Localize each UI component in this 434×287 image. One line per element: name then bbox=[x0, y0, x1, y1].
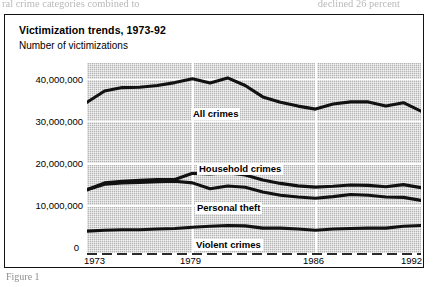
line-all-crimes bbox=[87, 78, 421, 111]
line-violent-crimes bbox=[87, 226, 421, 232]
series-label-household-crimes: Household crimes bbox=[197, 163, 283, 175]
plot-area: All crimes Household crimes Personal the… bbox=[87, 63, 421, 253]
bleed-text-right: declined 26 percent bbox=[318, 0, 400, 10]
figure-caption: Figure 1 bbox=[6, 271, 40, 283]
series-label-personal-theft: Personal theft bbox=[195, 202, 262, 214]
y-tick-label-0: 0 bbox=[74, 242, 79, 253]
series-label-all-crimes: All crimes bbox=[191, 108, 240, 120]
x-tick-label-1979: 1979 bbox=[180, 255, 201, 266]
x-tick-label-1986: 1986 bbox=[303, 255, 324, 266]
series-lines bbox=[87, 63, 421, 253]
y-tick-label-20000000: 20,000,000 bbox=[35, 158, 83, 169]
figure-container: Victimization trends, 1973-92 Number of … bbox=[4, 14, 424, 268]
x-axis: 1973 1979 1986 1992 bbox=[87, 255, 421, 271]
x-tick-label-1992: 1992 bbox=[401, 255, 422, 266]
page-bleed-top: ral crime categories combined to decline… bbox=[0, 0, 434, 13]
chart-subtitle: Number of victimizations bbox=[19, 40, 128, 51]
chart-title: Victimization trends, 1973-92 bbox=[19, 24, 166, 36]
y-tick-label-30000000: 30,000,000 bbox=[35, 115, 83, 126]
bleed-text-left: ral crime categories combined to bbox=[2, 0, 140, 10]
series-label-violent-crimes: Violent crimes bbox=[194, 239, 263, 251]
y-axis: 40,000,000 30,000,000 20,000,000 10,000,… bbox=[5, 63, 83, 253]
y-tick-label-40000000: 40,000,000 bbox=[35, 73, 83, 84]
y-tick-label-10000000: 10,000,000 bbox=[35, 200, 83, 211]
x-tick-label-1973: 1973 bbox=[84, 255, 105, 266]
